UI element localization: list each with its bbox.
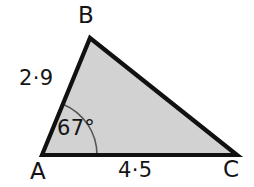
vertex-label-a: A bbox=[30, 160, 46, 183]
vertex-label-c: C bbox=[223, 158, 240, 181]
vertex-label-b: B bbox=[78, 4, 94, 27]
angle-label-a: 67° bbox=[57, 118, 95, 139]
side-length-label-ab: 2·9 bbox=[19, 68, 53, 89]
side-length-label-ac: 4·5 bbox=[118, 160, 152, 181]
triangle-diagram-canvas: B A C 2·9 4·5 67° bbox=[0, 0, 254, 187]
